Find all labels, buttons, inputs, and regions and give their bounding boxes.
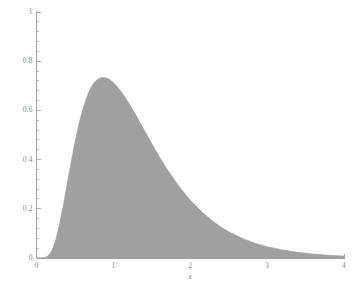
density-area-series (37, 77, 345, 258)
y-tick-label: 1 (11, 8, 33, 16)
x-tick-label: 2 (180, 262, 200, 270)
y-tick-label: 0.2 (11, 205, 33, 213)
x-tick-label: 4 (334, 262, 354, 270)
x-tick-label: 0 (27, 262, 47, 270)
chart-container: 0123400.20.40.60.81 x (0, 0, 362, 284)
density-plot (0, 0, 362, 284)
y-tick-label: 0.4 (11, 156, 33, 164)
density-area-path (37, 77, 345, 258)
x-tick-label: 3 (257, 262, 277, 270)
x-axis-title: x (170, 273, 210, 281)
y-tick-label: 0.6 (11, 106, 33, 114)
x-tick-label: 1 (103, 262, 123, 270)
y-tick-label: 0 (11, 254, 33, 262)
y-tick-label: 0.8 (11, 57, 33, 65)
